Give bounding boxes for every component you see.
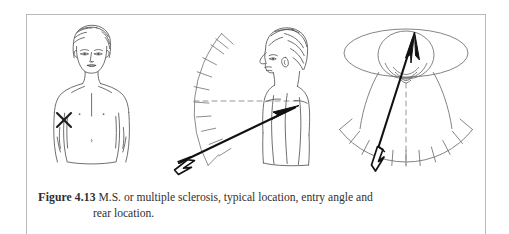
figure-number-label: Figure 4.13 bbox=[38, 191, 96, 204]
figure-number-rest: igure 4.13 bbox=[46, 191, 96, 204]
figure-caption: Figure 4.13 M.S. or multiple sclerosis, … bbox=[38, 190, 478, 221]
panel-rear-view bbox=[327, 15, 485, 185]
figure-illustration-area bbox=[27, 15, 485, 185]
torso-outline bbox=[54, 84, 130, 164]
face-features bbox=[81, 50, 103, 67]
figure-caption-line-1: M.S. or multiple sclerosis, typical loca… bbox=[98, 191, 372, 204]
neck-outline bbox=[83, 72, 101, 84]
front-view-drawing bbox=[33, 15, 163, 185]
figure-number-initial: F bbox=[38, 190, 46, 204]
rear-angle-protractor bbox=[340, 83, 473, 166]
head-hair-outline bbox=[73, 25, 111, 58]
horizontal-plane-ellipse bbox=[344, 29, 468, 77]
rear-location-arrow bbox=[372, 32, 420, 171]
head-face-outline bbox=[74, 46, 109, 73]
entry-angle-protractor bbox=[194, 34, 299, 166]
entry-angle-arrow bbox=[175, 106, 300, 175]
panel-side-view bbox=[147, 15, 322, 185]
page-canvas: Figure 4.13 M.S. or multiple sclerosis, … bbox=[0, 0, 509, 234]
side-view-drawing bbox=[147, 15, 322, 185]
side-profile-figure bbox=[260, 28, 310, 166]
figure-caption-line-2: rear location. bbox=[38, 206, 478, 222]
panel-front-view bbox=[33, 15, 163, 185]
rear-view-drawing bbox=[327, 15, 485, 185]
